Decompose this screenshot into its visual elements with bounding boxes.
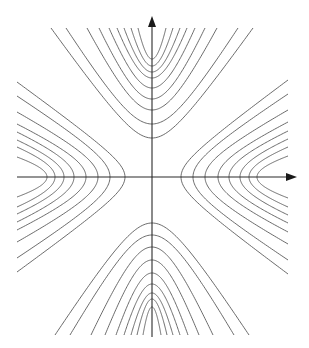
contour-plot-canvas (0, 0, 309, 348)
x-axis-arrow-icon (286, 173, 297, 181)
coordinate-axes (17, 16, 297, 337)
y-axis-arrow-icon (148, 16, 156, 27)
contour-diagram (0, 0, 309, 348)
